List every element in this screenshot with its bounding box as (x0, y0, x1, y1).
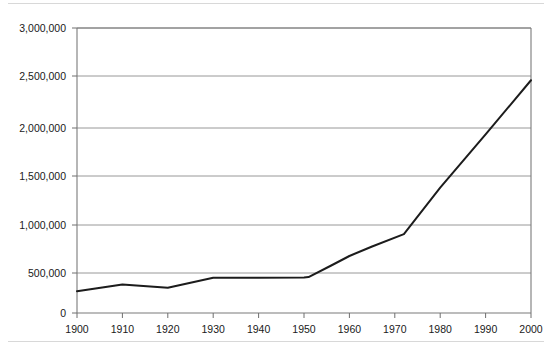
y-axis-labels: 3,000,000 2,500,000 2,000,000 1,500,000 … (19, 22, 66, 319)
y-axis-label-500000: 500,000 (28, 267, 66, 279)
x-axis-label-1910: 1910 (111, 323, 135, 335)
data-series-line (77, 80, 531, 291)
y-axis-label-1500000: 1,500,000 (19, 170, 66, 182)
y-axis-label-0: 0 (60, 307, 66, 319)
x-axis-labels: 1900 1910 1920 1930 1940 1950 1960 1970 … (65, 323, 543, 335)
y-axis-label-1000000: 1,000,000 (19, 219, 66, 231)
x-axis-label-1980: 1980 (429, 323, 453, 335)
x-axis-label-1920: 1920 (156, 323, 180, 335)
chart-svg: 3,000,000 2,500,000 2,000,000 1,500,000 … (0, 0, 551, 354)
plot-frame (77, 28, 531, 313)
x-axis-ticks (77, 313, 531, 318)
y-axis-label-3000000: 3,000,000 (19, 22, 66, 34)
line-chart: 3,000,000 2,500,000 2,000,000 1,500,000 … (0, 0, 551, 354)
x-axis-label-1940: 1940 (247, 323, 271, 335)
chart-page: 3,000,000 2,500,000 2,000,000 1,500,000 … (0, 0, 551, 354)
x-axis-label-1990: 1990 (474, 323, 498, 335)
x-axis-label-1930: 1930 (202, 323, 226, 335)
x-axis-label-1950: 1950 (292, 323, 316, 335)
x-axis-label-1970: 1970 (383, 323, 407, 335)
x-axis-label-2000: 2000 (519, 323, 543, 335)
x-axis-label-1960: 1960 (338, 323, 362, 335)
gridlines (77, 28, 531, 273)
y-axis-label-2500000: 2,500,000 (19, 70, 66, 82)
x-axis-label-1900: 1900 (65, 323, 89, 335)
y-axis-ticks (72, 28, 77, 313)
y-axis-label-2000000: 2,000,000 (19, 122, 66, 134)
